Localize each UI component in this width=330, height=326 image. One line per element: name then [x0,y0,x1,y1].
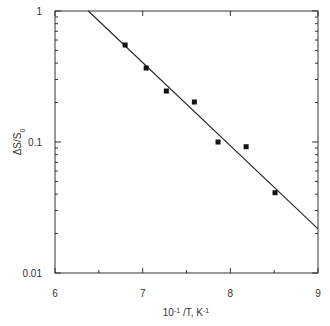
x-tick-label: 8 [228,288,234,299]
x-axis-title: 10-1 /T, K-1 [163,307,209,319]
data-point [192,99,197,104]
data-point [216,140,221,145]
x-axis-ticks: 6789 [52,11,321,299]
chart: 6789 10.10.01 10-1 /T, K-1 ΔS/S0 [0,0,330,326]
y-tick-label: 0.1 [28,137,42,148]
data-point [123,43,128,48]
y-tick-label: 0.01 [23,268,43,279]
data-point [244,144,249,149]
data-point [164,89,169,94]
x-tick-label: 7 [140,288,146,299]
y-tick-label: 1 [36,6,42,17]
data-point [273,190,278,195]
data-point [144,66,149,71]
y-axis-title: ΔS/S0 [12,129,26,156]
y-axis-ticks: 10.10.01 [23,6,318,279]
plot-frame [55,11,318,273]
x-tick-label: 6 [52,288,58,299]
x-tick-label: 9 [315,288,321,299]
